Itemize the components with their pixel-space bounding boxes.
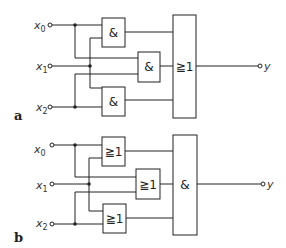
output-gate-a-symbol: ≧1 (176, 60, 194, 74)
junction-dot (87, 182, 91, 186)
junction-dot (73, 143, 77, 147)
panel-label-a: a (14, 108, 23, 123)
circuit-a: x0 x1 x2 & & (14, 15, 271, 123)
input-label-x0: x0 (33, 19, 46, 34)
input-terminal-x0 (50, 143, 54, 147)
input-label-x2: x2 (35, 217, 48, 232)
input-label-x1: x1 (35, 60, 48, 75)
logic-circuit-diagrams: x0 x1 x2 & & (0, 0, 286, 248)
gate-a2-symbol: & (144, 60, 153, 74)
input-terminal-x0 (48, 23, 52, 27)
output-label-b: y (266, 178, 274, 191)
output-terminal-a (258, 64, 262, 68)
input-terminal-x1 (48, 64, 52, 68)
gate-b1-symbol: ≧1 (105, 145, 123, 159)
junction-dot (88, 64, 92, 68)
input-label-x0: x0 (33, 143, 46, 158)
input-terminal-x2 (48, 105, 52, 109)
input-terminal-x1 (50, 182, 54, 186)
panel-label-b: b (14, 230, 23, 245)
junction-dot (73, 105, 77, 109)
gate-b3-symbol: ≧1 (106, 212, 124, 226)
output-gate-b-symbol: & (180, 178, 189, 192)
gate-a1-symbol: & (109, 26, 118, 40)
circuit-b: x0 x1 x2 ≧1 ≧1 ≧1 (14, 135, 274, 245)
output-terminal-b (261, 182, 265, 186)
input-label-x1: x1 (35, 179, 48, 194)
junction-dot (73, 222, 77, 226)
gate-a3-symbol: & (109, 95, 118, 109)
input-label-x2: x2 (35, 101, 48, 116)
junction-dot (73, 23, 77, 27)
input-terminal-x2 (50, 222, 54, 226)
output-label-a: y (263, 60, 271, 73)
gate-b2-symbol: ≧1 (139, 178, 157, 192)
